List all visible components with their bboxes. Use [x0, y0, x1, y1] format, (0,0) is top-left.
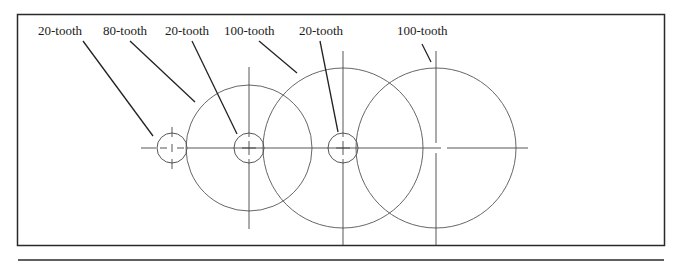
- leader-lines: [83, 41, 431, 136]
- leader-gear4: [259, 41, 297, 73]
- label-20-tooth-3: 20-tooth: [299, 24, 343, 37]
- gear-train-diagram: 20-tooth 80-tooth 20-tooth 100-tooth 20-…: [0, 0, 680, 265]
- drawing-frame: [18, 15, 665, 246]
- leader-gear1: [83, 41, 153, 136]
- diagram-drawing: [0, 0, 680, 265]
- label-20-tooth-1: 20-tooth: [38, 24, 82, 37]
- label-100-tooth-1: 100-tooth: [224, 24, 275, 37]
- leader-gear6: [422, 44, 431, 62]
- label-20-tooth-2: 20-tooth: [165, 24, 209, 37]
- label-80-tooth: 80-tooth: [103, 24, 147, 37]
- label-100-tooth-2: 100-tooth: [397, 24, 448, 37]
- leader-gear2: [130, 41, 195, 102]
- leader-gear5: [320, 41, 338, 132]
